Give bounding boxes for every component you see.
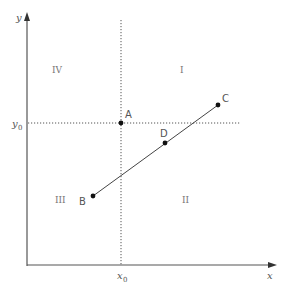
- point-d: [163, 141, 168, 146]
- point-b-label: B: [79, 196, 86, 207]
- point-c-label: C: [222, 93, 229, 104]
- y-axis-arrow-icon: [24, 12, 30, 21]
- y0-label-main: y: [11, 118, 18, 129]
- quadrant-ii-label: II: [182, 195, 190, 205]
- x-axis: [27, 262, 277, 268]
- quadrant-iv-label: IV: [52, 65, 63, 75]
- quadrant-diagram: A B C D IV I III II y x x 0 y 0: [0, 0, 288, 295]
- quadrant-iii-label: III: [55, 195, 66, 205]
- y-axis: [24, 12, 30, 266]
- point-c: [216, 103, 221, 108]
- point-a: [119, 121, 124, 126]
- x0-label: x 0: [117, 270, 127, 284]
- point-d-label: D: [160, 128, 168, 139]
- y0-label: y 0: [11, 118, 22, 132]
- segment-bc: [93, 105, 218, 196]
- y0-label-subscript: 0: [18, 124, 22, 132]
- x-axis-label: x: [267, 270, 273, 281]
- y-axis-label: y: [15, 12, 22, 23]
- quadrant-i-label: I: [180, 65, 184, 75]
- x-axis-arrow-icon: [268, 262, 277, 268]
- point-b: [91, 194, 96, 199]
- point-a-label: A: [125, 109, 132, 120]
- x0-label-subscript: 0: [123, 276, 127, 284]
